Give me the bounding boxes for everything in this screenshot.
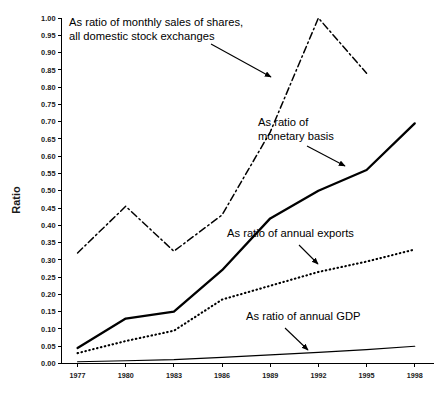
chart-canvas: Ratio 0.000.050.100.150.200.250.300.350.… [0,0,444,401]
y-tick-label: 0.15 [41,307,55,316]
y-axis-ticks: 0.000.050.100.150.200.250.300.350.400.45… [41,14,61,369]
y-axis-title-label: Ratio [10,186,22,214]
y-tick-label: 0.00 [41,359,55,368]
annotation-annual-exports-arrow [299,245,318,264]
y-tick-label: 0.65 [41,135,55,144]
annotation-annual-gdp: As ratio of annual GDP [246,310,360,350]
annotation-monthly-sales-arrow [211,44,271,77]
x-tick-label: 1983 [166,371,182,380]
x-tick-label: 1977 [70,371,86,380]
y-tick-label: 0.70 [41,117,55,126]
y-tick-label: 0.90 [41,48,55,57]
y-tick-label: 0.60 [41,152,55,161]
annotation-monthly-sales-line-1: As ratio of monthly sales of shares, [69,16,243,28]
annotation-monetary-basis: As ratio of monetary basis [258,116,345,166]
y-tick-label: 1.00 [41,14,55,23]
y-tick-label: 0.30 [41,256,55,265]
series-line [78,249,415,353]
y-tick-label: 0.05 [41,342,55,351]
x-tick-label: 1989 [262,371,278,380]
annotation-monetary-basis-arrow [307,146,345,166]
y-tick-label: 0.85 [41,66,55,75]
x-tick-label: 1986 [214,371,230,380]
annotation-monthly-sales-line-2: all domestic stock exchanges [69,30,215,42]
annotation-annual-gdp-arrow [285,328,308,350]
x-axis-ticks: 19771980198319861989199219951998 [70,364,423,380]
chart-figure: Ratio 0.000.050.100.150.200.250.300.350.… [0,0,444,401]
y-tick-label: 0.10 [41,325,55,334]
annotation-monetary-basis-line-1: As ratio of [258,116,309,128]
y-tick-label: 0.80 [41,83,55,92]
annotation-annual-exports-line-1: As ratio of annual exports [227,227,354,239]
y-tick-label: 0.20 [41,290,55,299]
series-line [78,346,415,362]
y-tick-label: 0.50 [41,186,55,195]
annotation-monthly-sales: As ratio of monthly sales of shares, all… [69,16,271,77]
x-tick-label: 1995 [359,371,375,380]
x-tick-label: 1992 [310,371,326,380]
x-tick-label: 1998 [407,371,423,380]
y-tick-label: 0.75 [41,100,55,109]
y-tick-label: 0.25 [41,273,55,282]
y-tick-label: 0.40 [41,221,55,230]
y-tick-label: 0.35 [41,238,55,247]
x-tick-label: 1980 [118,371,134,380]
y-axis-title: Ratio [10,186,22,214]
y-tick-label: 0.55 [41,169,55,178]
y-tick-label: 0.95 [41,31,55,40]
y-tick-label: 0.45 [41,204,55,213]
annotation-monetary-basis-line-2: monetary basis [258,130,334,142]
annotation-annual-gdp-line-1: As ratio of annual GDP [246,310,360,322]
